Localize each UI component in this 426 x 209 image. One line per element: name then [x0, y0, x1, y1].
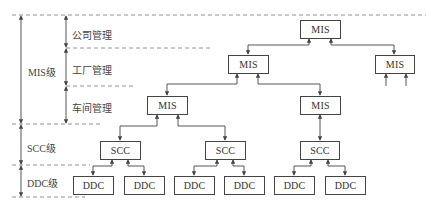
sublevel-label-workshop: 车间管理: [72, 100, 112, 115]
node-mis-top: MIS: [300, 20, 341, 39]
node-mis-factory-left: MIS: [228, 55, 269, 74]
node-mis-factory-right: MIS: [375, 55, 415, 74]
node-ddc-1: DDC: [73, 176, 114, 195]
sublevel-label-company: 公司管理: [72, 27, 112, 42]
node-ddc-4: DDC: [224, 176, 265, 195]
level-span-arrows: [21, 16, 66, 196]
node-ddc-6: DDC: [325, 176, 366, 195]
node-scc-3: SCC: [300, 141, 340, 160]
level-label-scc: SCC级: [27, 140, 56, 155]
node-mis-workshop-1: MIS: [147, 96, 188, 115]
level-label-mis: MIS级: [28, 64, 56, 79]
node-scc-2: SCC: [205, 141, 246, 160]
sublevel-label-factory: 工厂管理: [72, 62, 112, 77]
node-scc-1: SCC: [100, 141, 141, 160]
node-ddc-5: DDC: [274, 176, 315, 195]
node-mis-workshop-2: MIS: [300, 96, 341, 115]
level-label-ddc: DDC级: [27, 175, 58, 190]
node-ddc-2: DDC: [124, 176, 165, 195]
node-ddc-3: DDC: [174, 176, 215, 195]
